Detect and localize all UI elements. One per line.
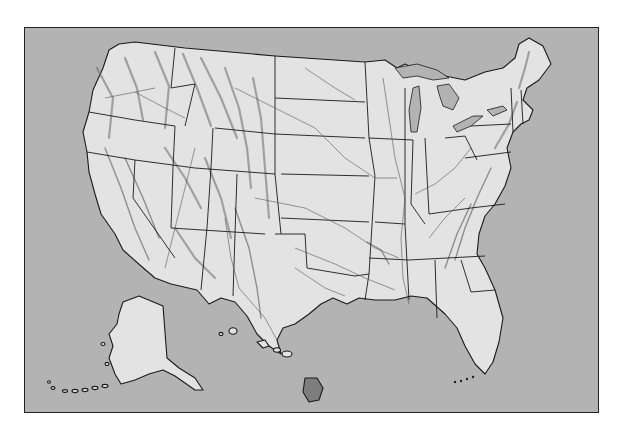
lake-superior xyxy=(395,64,449,80)
map-frame xyxy=(24,27,599,413)
alaska xyxy=(109,296,203,390)
florida-keys xyxy=(454,376,474,383)
us-relief-map xyxy=(25,28,599,413)
aleutian-islands xyxy=(48,343,110,393)
